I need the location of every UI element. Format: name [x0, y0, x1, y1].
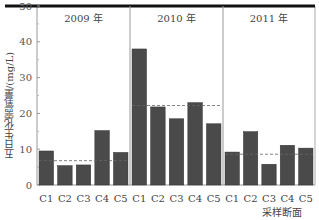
bar	[188, 103, 203, 185]
x-tick-label: C1	[39, 193, 53, 204]
bar	[262, 164, 276, 185]
x-tick-label: C2	[244, 193, 258, 204]
bar	[225, 152, 239, 185]
bar	[76, 165, 91, 185]
group-label: 2011 年	[250, 12, 289, 24]
x-tick-label: C5	[114, 193, 128, 204]
x-tick-label: C5	[207, 193, 221, 204]
x-tick-label: C1	[225, 193, 239, 204]
y-tick-label: 0	[26, 180, 32, 191]
x-tick-label: C4	[280, 193, 294, 204]
y-tick-label: 50	[19, 1, 32, 12]
x-tick-label: C2	[151, 193, 165, 204]
bar	[95, 131, 110, 185]
bar	[151, 107, 166, 185]
group-label: 2009 年	[64, 12, 103, 24]
x-tick-label: C4	[188, 193, 202, 204]
x-tick-label: C3	[262, 193, 276, 204]
y-tick-label: 10	[19, 144, 32, 155]
group-label: 2010 年	[157, 12, 196, 24]
x-tick-label: C4	[95, 193, 109, 204]
bar	[58, 166, 73, 185]
bar	[243, 132, 257, 185]
bar	[132, 49, 147, 185]
y-tick-label: 30	[19, 72, 32, 83]
x-tick-label: C3	[169, 193, 183, 204]
bar	[299, 148, 313, 185]
bod5-bar-chart: 010203040502009 年C1C2C3C4C52010 年C1C2C3C…	[0, 0, 319, 220]
x-tick-label: C2	[58, 193, 72, 204]
y-axis-label: 五日生化需氧量/(mg/L)	[2, 30, 20, 180]
bar	[113, 152, 128, 185]
bar	[206, 124, 221, 185]
x-tick-label: C5	[299, 193, 313, 204]
bar	[280, 145, 294, 185]
x-tick-label: C1	[132, 193, 146, 204]
x-tick-label: C3	[76, 193, 90, 204]
y-tick-label: 20	[19, 108, 32, 119]
chart-svg: 010203040502009 年C1C2C3C4C52010 年C1C2C3C…	[0, 0, 319, 220]
x-axis-label: 采样断面	[262, 204, 302, 219]
bar	[39, 151, 54, 185]
bar	[169, 119, 184, 185]
y-tick-label: 40	[19, 36, 32, 47]
